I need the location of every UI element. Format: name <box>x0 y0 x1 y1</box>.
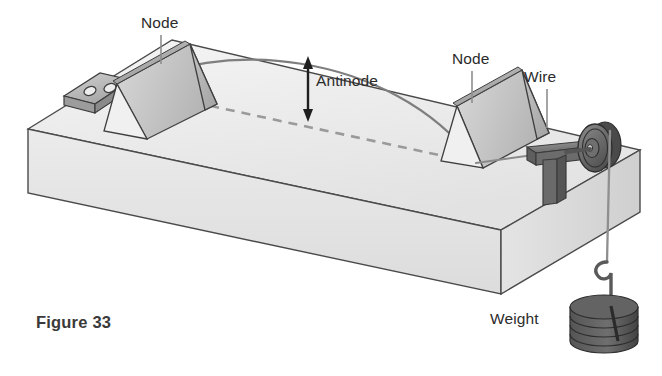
antinode-arrowhead-up <box>303 56 313 69</box>
weight-stack <box>570 295 638 353</box>
bracket-post-side <box>557 155 566 203</box>
label-wire: Wire <box>524 68 556 86</box>
figure-container: Node Node Wire Antinode Weight Figure 33 <box>0 0 662 376</box>
label-weight: Weight <box>490 310 539 328</box>
bracket-post <box>543 159 557 205</box>
label-antinode: Antinode <box>316 72 378 90</box>
weight-top-face <box>570 295 638 319</box>
label-node-right: Node <box>452 50 489 68</box>
figure-caption: Figure 33 <box>36 313 111 332</box>
label-node-left: Node <box>141 14 178 32</box>
